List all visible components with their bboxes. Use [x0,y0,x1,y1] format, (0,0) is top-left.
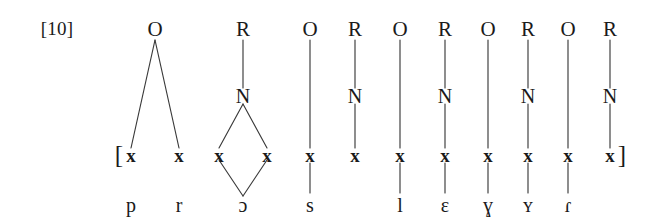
x-slot-10: x [523,146,533,165]
x-slot-6: x [350,146,360,165]
nucleus-4: N [521,86,535,106]
skeleton-open-bracket: [ [115,142,123,167]
segment-tap-r: ɾ [565,195,572,215]
constituent-onset-5: O [560,19,575,40]
nucleus-3: N [438,86,452,106]
nucleus-5: N [603,86,617,106]
constituent-rhyme-3: R [438,19,452,40]
segment-r: r [176,195,183,215]
segment-l: l [397,195,403,215]
x-slot-7: x [395,146,405,165]
x-slot-1: x [126,146,136,165]
phonological-tree-diagram: [10] O R O R O R O R O R N N N N N [ x x… [0,0,653,224]
segment-gamma: ɣ [483,195,493,215]
constituent-onset-3: O [392,19,407,40]
segment-p: p [126,195,136,215]
constituent-onset-4: O [480,19,495,40]
tree-connector-lines [0,0,653,224]
skeleton-close-bracket: ] [618,142,626,167]
example-number: [10] [41,19,73,38]
segment-s: s [306,195,314,215]
constituent-onset-2: O [302,19,317,40]
nucleus-2: N [348,86,362,106]
x-slot-11: x [563,146,573,165]
branch-o1-right [155,40,179,148]
branch-o1-left [131,40,155,148]
x-slot-3: x [214,146,224,165]
x-slot-9: x [483,146,493,165]
segment-epsilon: ɛ [441,195,449,215]
constituent-rhyme-4: R [521,19,535,40]
x-slot-4: x [262,146,272,165]
x-slot-8: x [440,146,450,165]
x-slot-12: x [605,146,615,165]
x-slot-5: x [305,146,315,165]
branch-n2-left [219,104,243,148]
segment-open-o: ɔ [239,195,248,215]
x-slot-2: x [174,146,184,165]
constituent-rhyme-2: R [348,19,362,40]
constituent-rhyme-1: R [236,19,250,40]
constituent-onset-1: O [147,19,162,40]
nucleus-1: N [236,86,250,106]
branch-n2-right [243,104,267,148]
segment-small-cap-y: ʏ [523,195,533,215]
constituent-rhyme-5: R [603,19,617,40]
